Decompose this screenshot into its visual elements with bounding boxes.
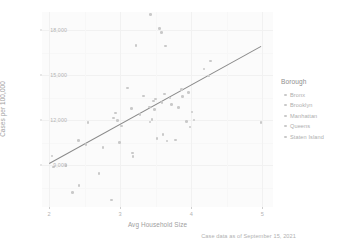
gridline-y — [42, 30, 273, 31]
data-point — [71, 191, 74, 194]
legend: Borough BronxBrooklynManhattanQueensStat… — [281, 78, 324, 142]
data-point — [85, 143, 88, 146]
y-tick-mark — [40, 30, 42, 31]
data-point — [207, 75, 210, 78]
legend-dot-icon — [284, 115, 286, 117]
y-tick-label: 9,000 — [53, 162, 67, 168]
gridline-y-minor — [42, 188, 273, 189]
gridline-x — [120, 12, 121, 207]
data-point — [126, 87, 129, 90]
data-point — [177, 106, 180, 109]
x-tick-label: 5 — [261, 211, 264, 217]
legend-key-icon — [281, 125, 290, 127]
data-point — [116, 119, 119, 122]
data-point — [160, 31, 163, 34]
data-point — [51, 155, 54, 158]
legend-key-icon — [281, 136, 290, 138]
x-tick-mark — [262, 207, 263, 209]
y-tick-mark — [40, 75, 42, 76]
gridline-x-minor — [156, 12, 157, 207]
data-point — [102, 146, 105, 149]
data-point — [118, 141, 121, 144]
legend-title: Borough — [281, 78, 324, 85]
data-point — [162, 133, 165, 136]
data-point — [87, 121, 90, 124]
x-tick-label: 3 — [119, 211, 122, 217]
data-point — [181, 95, 184, 98]
data-point — [135, 44, 138, 47]
x-axis-title: Avg Household Size — [42, 221, 273, 228]
legend-item-manhattan[interactable]: Manhattan — [281, 111, 324, 122]
x-tick-label: 4 — [190, 211, 193, 217]
data-point — [152, 100, 155, 103]
gridline-x — [262, 12, 263, 207]
x-tick-mark — [120, 207, 121, 209]
gridline-y — [42, 120, 273, 121]
x-tick-mark — [191, 207, 192, 209]
data-point — [174, 139, 177, 142]
legend-item-label: Queens — [290, 123, 310, 129]
legend-key-icon — [281, 94, 290, 96]
data-point — [161, 101, 164, 104]
data-point — [120, 125, 123, 128]
data-point — [185, 120, 188, 123]
gridline-y — [42, 75, 273, 76]
y-tick-label: 15,000 — [50, 72, 67, 78]
legend-key-icon — [281, 104, 290, 106]
data-point — [114, 112, 117, 115]
plot-panel — [42, 12, 273, 207]
data-point — [180, 88, 183, 91]
legend-item-label: Brooklyn — [290, 102, 313, 108]
gridline-y — [42, 165, 273, 166]
data-point — [164, 45, 167, 48]
gridline-x-minor — [85, 12, 86, 207]
legend-item-label: Staten Island — [290, 134, 324, 140]
data-point — [131, 152, 134, 155]
data-point — [148, 106, 151, 109]
legend-items: BronxBrooklynManhattanQueensStaten Islan… — [281, 90, 324, 143]
data-point — [98, 172, 101, 175]
gridline-x-minor — [227, 12, 228, 207]
data-point — [170, 103, 173, 106]
data-point — [209, 60, 212, 63]
data-point — [187, 91, 190, 94]
legend-item-brooklyn[interactable]: Brooklyn — [281, 100, 324, 111]
legend-item-queens[interactable]: Queens — [281, 121, 324, 132]
gridline-y-minor — [42, 143, 273, 144]
x-tick-label: 2 — [48, 211, 51, 217]
data-point — [163, 93, 166, 96]
data-point — [110, 199, 113, 202]
data-point — [156, 137, 159, 140]
data-point — [191, 111, 194, 114]
x-tick-mark — [49, 207, 50, 209]
y-tick-label: 18,000 — [50, 27, 67, 33]
y-axis-title: Cases per 100,000 — [0, 81, 6, 137]
gridline-y-minor — [42, 98, 273, 99]
data-point — [77, 139, 80, 142]
y-tick-label: 12,000 — [50, 117, 67, 123]
gridline-y-minor — [42, 53, 273, 54]
legend-key-icon — [281, 115, 290, 117]
y-tick-mark — [40, 165, 42, 166]
legend-dot-icon — [284, 125, 286, 127]
data-point — [149, 13, 152, 16]
legend-dot-icon — [284, 94, 286, 96]
legend-item-label: Bronx — [290, 92, 305, 98]
data-point — [260, 121, 263, 124]
legend-dot-icon — [284, 104, 286, 106]
legend-item-staten-island[interactable]: Staten Island — [281, 132, 324, 143]
data-point — [203, 68, 206, 71]
data-point — [112, 117, 115, 120]
data-point — [158, 27, 161, 30]
legend-dot-icon — [284, 136, 286, 138]
legend-item-bronx[interactable]: Bronx — [281, 90, 324, 101]
gridline-x — [49, 12, 50, 207]
scatter-plot-figure: Cases per 100,000 Avg Household Size Bor… — [0, 0, 343, 247]
legend-item-label: Manhattan — [290, 113, 317, 119]
y-tick-mark — [40, 120, 42, 121]
data-point — [132, 155, 135, 158]
data-point — [139, 113, 142, 116]
data-point — [153, 108, 156, 111]
data-point — [169, 97, 172, 100]
data-point — [130, 107, 133, 110]
